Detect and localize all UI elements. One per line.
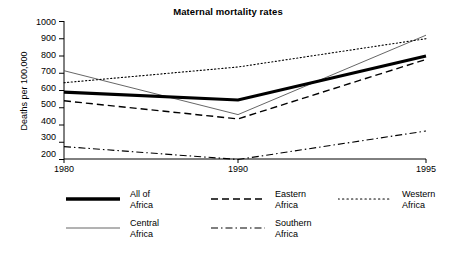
legend-label-line1: Southern bbox=[275, 218, 312, 228]
legend-label-line1: Western bbox=[402, 189, 435, 199]
legend-swatch-thin-solid bbox=[66, 223, 120, 233]
legend-swatch-dash-dot bbox=[211, 223, 265, 233]
legend-swatch-thick-solid bbox=[66, 194, 120, 204]
y-tick-marks bbox=[59, 22, 64, 160]
x-tick-marks bbox=[64, 159, 426, 163]
legend-row-2: Central Africa Southern Africa bbox=[66, 219, 446, 247]
legend-swatch-dashed bbox=[211, 194, 265, 204]
legend-label-central-africa: Central Africa bbox=[130, 218, 200, 239]
chart-legend: All of Africa Eastern Africa Western bbox=[66, 190, 446, 250]
legend-item-eastern-africa[interactable]: Eastern Africa bbox=[211, 190, 341, 218]
legend-row-1: All of Africa Eastern Africa Western bbox=[66, 190, 446, 218]
legend-item-western-africa[interactable]: Western Africa bbox=[338, 190, 456, 218]
legend-label-line2: Africa bbox=[130, 229, 200, 240]
legend-label-western-africa: Western Africa bbox=[402, 189, 456, 210]
legend-label-line1: All of bbox=[130, 189, 150, 199]
legend-label-line1: Central bbox=[130, 218, 159, 228]
legend-label-line2: Africa bbox=[130, 200, 200, 211]
legend-label-southern-africa: Southern Africa bbox=[275, 218, 345, 239]
series-line-southern-africa bbox=[64, 131, 426, 160]
legend-label-all-of-africa: All of Africa bbox=[130, 189, 200, 210]
legend-label-eastern-africa: Eastern Africa bbox=[275, 189, 345, 210]
legend-item-southern-africa[interactable]: Southern Africa bbox=[211, 219, 341, 247]
legend-label-line2: Africa bbox=[275, 200, 345, 211]
legend-label-line2: Africa bbox=[275, 229, 345, 240]
chart-container: Maternal mortality rates Deaths per 100,… bbox=[0, 0, 456, 255]
legend-label-line2: Africa bbox=[402, 200, 456, 211]
legend-label-line1: Eastern bbox=[275, 189, 306, 199]
legend-swatch-dotted bbox=[338, 194, 392, 204]
legend-item-central-africa[interactable]: Central Africa bbox=[66, 219, 196, 247]
series-line-western-africa bbox=[64, 39, 426, 83]
legend-item-all-of-africa[interactable]: All of Africa bbox=[66, 190, 196, 218]
